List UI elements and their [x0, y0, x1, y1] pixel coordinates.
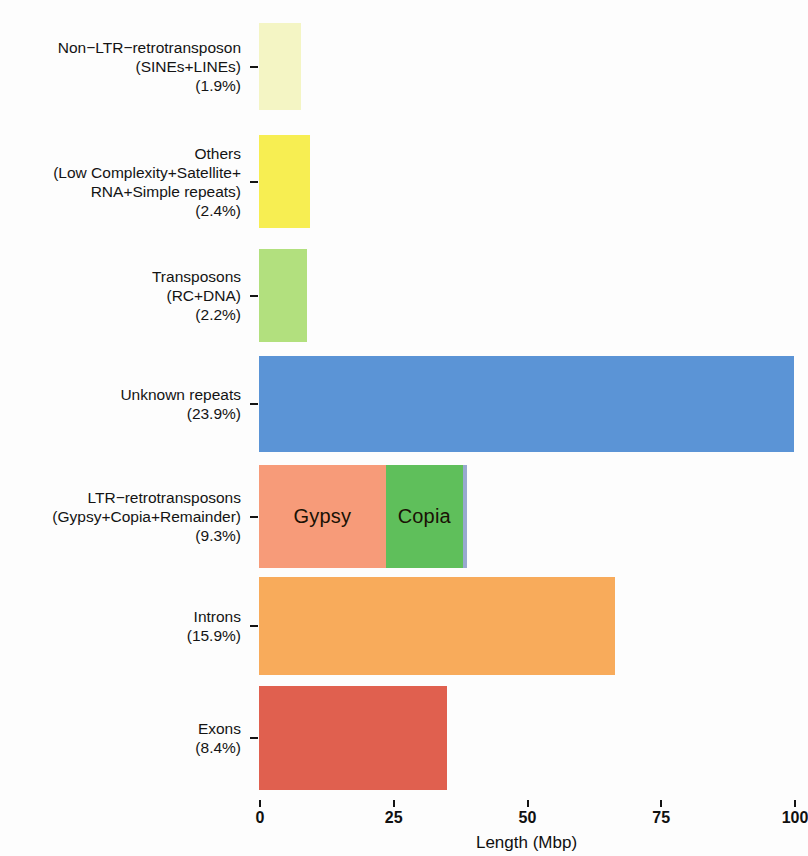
bar-stack	[259, 249, 307, 342]
y-axis-label-text: LTR−retrotransposons (Gypsy+Copia+Remain…	[52, 488, 241, 545]
x-axis-tick-label: 0	[256, 809, 265, 827]
bar-segment-label: Copia	[398, 505, 451, 528]
bar-stack	[259, 686, 447, 790]
bar-segment-others[interactable]	[259, 135, 310, 228]
y-axis-label-text: Unknown repeats (23.9%)	[120, 385, 241, 423]
x-axis-tick-mark	[259, 800, 261, 807]
y-axis-label-non-ltr-retrotransposon: Non−LTR−retrotransposon (SINEs+LINEs) (1…	[0, 23, 241, 110]
y-axis-label-introns: Introns (15.9%)	[0, 577, 241, 675]
bar-stack	[259, 577, 615, 675]
x-axis-title: Length (Mbp)	[259, 833, 794, 853]
x-axis-tick-label: 100	[782, 809, 808, 827]
y-axis-tick-mark	[250, 295, 258, 297]
x-axis-tick-label: 75	[652, 809, 670, 827]
plot-area: GypsyCopia	[259, 0, 794, 800]
bar-chart: Non−LTR−retrotransposon (SINEs+LINEs) (1…	[0, 0, 808, 856]
y-axis-tick-mark	[250, 66, 258, 68]
y-axis-label-others: Others (Low Complexity+Satellite+ RNA+Si…	[0, 135, 241, 228]
bar-row	[259, 686, 794, 790]
bar-row	[259, 135, 794, 228]
y-axis-tick-mark	[250, 403, 258, 405]
x-axis-tick-mark	[660, 800, 662, 807]
y-axis-tick-mark	[250, 737, 258, 739]
y-axis-tick-mark	[250, 181, 258, 183]
x-axis-tick-label: 25	[385, 809, 403, 827]
bar-row	[259, 249, 794, 342]
bar-segment-remainder[interactable]	[463, 465, 467, 568]
x-axis-tick-label: 50	[519, 809, 537, 827]
bar-segment-copia[interactable]: Copia	[386, 465, 463, 568]
x-axis-tick-mark	[527, 800, 529, 807]
y-axis-label-exons: Exons (8.4%)	[0, 686, 241, 790]
y-axis-tick-mark	[250, 516, 258, 518]
bar-stack: GypsyCopia	[259, 465, 467, 568]
x-axis: 0255075100 Length (Mbp)	[259, 800, 794, 856]
y-axis-label-unknown-repeats: Unknown repeats (23.9%)	[0, 356, 241, 452]
bar-segment-gypsy[interactable]: Gypsy	[259, 465, 386, 568]
bar-segment-unknown-repeats[interactable]	[259, 356, 794, 452]
bar-segment-label: Gypsy	[294, 505, 352, 528]
bar-segment-exons[interactable]	[259, 686, 447, 790]
y-axis-label-text: Introns (15.9%)	[187, 607, 241, 645]
y-axis-label-ltr-retrotransposons: LTR−retrotransposons (Gypsy+Copia+Remain…	[0, 465, 241, 568]
bar-stack	[259, 356, 794, 452]
y-axis-tick-mark	[250, 625, 258, 627]
y-axis-label-text: Exons (8.4%)	[195, 719, 241, 757]
x-axis-tick-mark	[393, 800, 395, 807]
bar-segment-introns[interactable]	[259, 577, 615, 675]
y-axis-label-text: Transposons (RC+DNA) (2.2%)	[152, 267, 241, 324]
y-axis-label-text: Others (Low Complexity+Satellite+ RNA+Si…	[53, 144, 241, 220]
bar-row	[259, 577, 794, 675]
y-axis-label-text: Non−LTR−retrotransposon (SINEs+LINEs) (1…	[58, 38, 241, 95]
bar-row: GypsyCopia	[259, 465, 794, 568]
bar-stack	[259, 23, 301, 110]
bar-stack	[259, 135, 310, 228]
bar-segment-non-ltr-retrotransposon[interactable]	[259, 23, 301, 110]
y-axis-label-transposons: Transposons (RC+DNA) (2.2%)	[0, 249, 241, 342]
bar-row	[259, 356, 794, 452]
bar-segment-transposons[interactable]	[259, 249, 307, 342]
bar-row	[259, 23, 794, 110]
x-axis-tick-mark	[794, 800, 796, 807]
